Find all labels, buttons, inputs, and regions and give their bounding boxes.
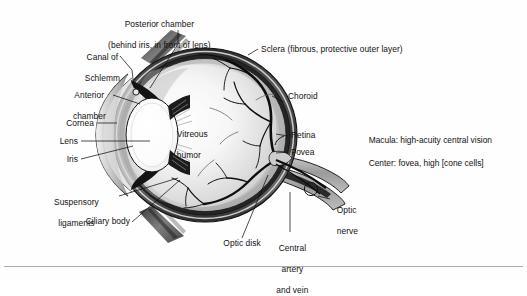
macula-annotation-line2: Center: fovea, high [cone cells]: [369, 158, 484, 168]
cornea-text: Cornea: [66, 118, 94, 128]
sclera-text: Sclera (fibrous, protective outer layer): [261, 44, 403, 54]
ciliary-body-text: Ciliary body: [86, 216, 130, 226]
anterior-chamber-line1: Anterior: [74, 90, 104, 100]
canal-of-schlemm-line1: Canal of: [87, 52, 119, 62]
central-line1: Central: [279, 243, 306, 253]
label-vitreous-humor: Vitreous humor: [172, 118, 242, 160]
label-retina: Retina: [291, 130, 361, 141]
macula-annotation: Macula: high-acuity central vision Cente…: [364, 124, 524, 170]
label-anterior-chamber: Anterior chamber: [32, 79, 142, 121]
posterior-chamber-line1: Posterior chamber: [125, 19, 194, 29]
fovea-text: Fovea: [291, 147, 315, 157]
label-canal-of-schlemm: Canal of Schlemm: [40, 41, 160, 83]
suspensory-line1: Suspensory: [54, 197, 99, 207]
vitreous-line2: humor: [177, 150, 201, 160]
vitreous-line1: Vitreous: [177, 129, 208, 139]
label-optic-nerve: Optic nerve: [332, 194, 392, 236]
label-sclera: Sclera (fibrous, protective outer layer): [261, 44, 481, 55]
optic-nerve-line1: Optic: [337, 205, 357, 215]
label-fovea: Fovea: [291, 147, 361, 158]
choroid-text: Choroid: [288, 91, 318, 101]
iris-text: Iris: [67, 154, 78, 164]
label-cornea: Cornea: [10, 118, 94, 129]
label-iris: Iris: [10, 154, 78, 165]
macula-annotation-line1: Macula: high-acuity central vision: [369, 135, 492, 145]
label-central-artery-and-vein: Central artery and vein: [258, 232, 322, 296]
footer-divider: [4, 266, 523, 267]
retina-text: Retina: [291, 130, 316, 140]
label-ciliary-body: Ciliary body: [40, 216, 130, 227]
central-line3: and vein: [276, 285, 308, 295]
label-lens: Lens: [10, 136, 78, 147]
optic-nerve-line2: nerve: [337, 226, 358, 236]
label-choroid: Choroid: [288, 91, 358, 102]
optic-disk-text: Optic disk: [223, 238, 260, 248]
lens-text: Lens: [60, 136, 78, 146]
